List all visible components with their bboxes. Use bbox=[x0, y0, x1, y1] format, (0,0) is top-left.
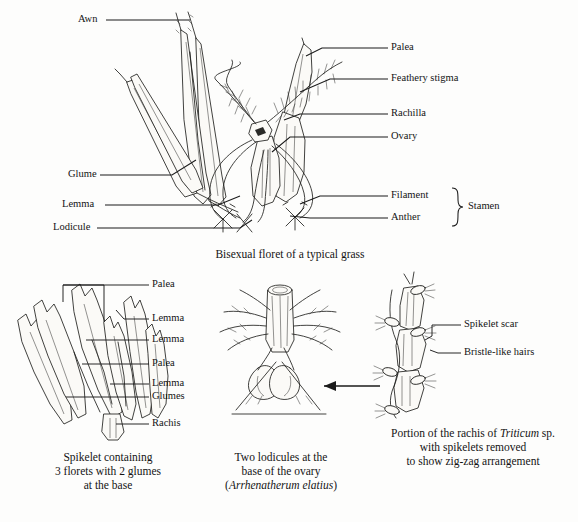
label-palea-floret: Palea bbox=[391, 42, 414, 53]
floret-core bbox=[210, 38, 342, 232]
pointer-arrow bbox=[324, 381, 380, 391]
caption-lodicules-line3: (Arrhenatherum elatius) bbox=[196, 478, 366, 492]
label-rachilla: Rachilla bbox=[391, 108, 426, 119]
label-stamen: Stamen bbox=[468, 201, 500, 212]
caption-rachis-prefix: Portion of the rachis of bbox=[391, 427, 500, 439]
caption-lodicules: Two lodicules at the base of the ovary (… bbox=[196, 450, 366, 492]
label-feathery-stigma: Feathery stigma bbox=[391, 73, 458, 84]
rachis-leader-lines bbox=[425, 325, 461, 353]
caption-spikelet-line1: Spikelet containing bbox=[8, 450, 208, 464]
label-spikelet-palea-2: Palea bbox=[152, 358, 175, 369]
caption-spikelet-line2: 3 florets with 2 glumes bbox=[8, 464, 208, 478]
caption-spikelet-line3: at the base bbox=[8, 478, 208, 492]
label-spikelet-lemma-2: Lemma bbox=[152, 334, 184, 345]
label-filament: Filament bbox=[391, 190, 428, 201]
label-spikelet-scar: Spikelet scar bbox=[464, 319, 518, 330]
caption-rachis-line2: with spikelets removed bbox=[368, 440, 578, 454]
label-awn: Awn bbox=[78, 14, 97, 25]
label-rachis: Rachis bbox=[152, 418, 181, 429]
caption-lodicules-line1: Two lodicules at the bbox=[196, 450, 366, 464]
species-paren-close: ) bbox=[333, 479, 337, 491]
label-anther: Anther bbox=[391, 212, 420, 223]
label-lodicule: Lodicule bbox=[53, 222, 90, 233]
caption-bisexual-floret: Bisexual floret of a typical grass bbox=[160, 247, 420, 261]
label-ovary: Ovary bbox=[391, 131, 417, 142]
label-spikelet-lemma-3: Lemma bbox=[152, 378, 184, 389]
label-spikelet-lemma-1: Lemma bbox=[152, 313, 184, 324]
label-spikelet-palea-1: Palea bbox=[152, 279, 175, 290]
caption-rachis: Portion of the rachis of Triticum sp. wi… bbox=[368, 426, 578, 468]
rachis-drawing bbox=[373, 272, 461, 418]
stamen-brace bbox=[452, 188, 463, 226]
label-glume: Glume bbox=[68, 169, 97, 180]
leader-lines-left bbox=[97, 20, 252, 228]
spikelet-drawing bbox=[18, 284, 168, 440]
caption-spikelet: Spikelet containing 3 florets with 2 glu… bbox=[8, 450, 208, 492]
label-glumes: Glumes bbox=[152, 391, 185, 402]
species-triticum: Triticum bbox=[500, 427, 539, 439]
feathery-stigma-left bbox=[215, 60, 256, 124]
caption-rachis-line1: Portion of the rachis of Triticum sp. bbox=[368, 426, 578, 440]
label-lemma: Lemma bbox=[62, 199, 94, 210]
caption-rachis-line3: to show zig-zag arrangement bbox=[368, 454, 578, 468]
caption-lodicules-line2: base of the ovary bbox=[196, 464, 366, 478]
lodicules-drawing bbox=[220, 285, 380, 414]
caption-rachis-suffix: sp. bbox=[539, 427, 555, 439]
species-arrhenatherum: Arrhenatherum elatius bbox=[229, 479, 333, 491]
label-bristle-like-hairs: Bristle-like hairs bbox=[464, 347, 534, 358]
